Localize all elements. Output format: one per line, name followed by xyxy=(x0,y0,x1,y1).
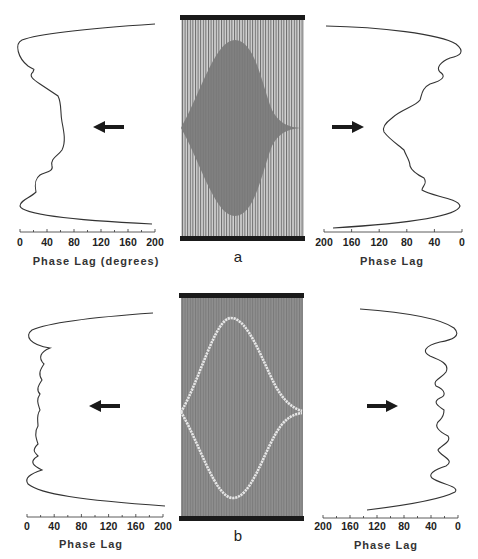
x-axis-title: Phase Lag xyxy=(59,538,123,550)
panel-b-right-plot: 200 160 120 80 40 0 Phase Lag xyxy=(314,309,461,551)
x-tick-label: 120 xyxy=(370,236,388,248)
panel-b-string-array-image xyxy=(179,293,304,521)
left-arrow-icon xyxy=(93,121,124,133)
x-tick-label: 160 xyxy=(341,520,359,532)
x-tick-label: 80 xyxy=(398,520,410,532)
bottom-boundary-bar xyxy=(180,236,305,241)
panel-b-left-plot: 0 40 80 120 160 200 Phase Lag xyxy=(24,313,172,550)
right-arrow-icon xyxy=(332,121,364,133)
x-tick-label: 0 xyxy=(455,520,461,532)
x-tick-label: 160 xyxy=(119,236,137,248)
panel-a-string-array-image xyxy=(180,15,305,241)
x-tick-label: 200 xyxy=(154,520,172,532)
panel-a-left-plot: 0 40 80 120 160 200 Phase Lag (degrees) xyxy=(17,24,164,267)
left-arrow-icon xyxy=(89,400,120,412)
panel-b: 0 40 80 120 160 200 Phase Lag b xyxy=(24,293,461,551)
phase-lag-curve xyxy=(360,309,457,510)
figure-canvas: 0 40 80 120 160 200 Phase Lag (degrees) … xyxy=(0,0,478,559)
panel-label: a xyxy=(234,248,243,265)
x-axis-title: Phase Lag xyxy=(360,255,424,267)
x-axis: 0 40 80 120 160 200 xyxy=(17,229,164,248)
x-tick-label: 40 xyxy=(41,236,53,248)
right-arrow-icon xyxy=(367,400,398,412)
x-tick-label: 200 xyxy=(315,236,333,248)
x-tick-label: 0 xyxy=(459,236,465,248)
x-tick-label: 40 xyxy=(429,236,441,248)
panel-a-right-plot: 200 160 120 80 40 0 Phase Lag xyxy=(315,26,465,267)
x-axis: 200 160 120 80 40 0 xyxy=(315,229,465,248)
panel-a: 0 40 80 120 160 200 Phase Lag (degrees) … xyxy=(17,15,465,267)
x-tick-label: 40 xyxy=(425,520,437,532)
x-tick-label: 80 xyxy=(401,236,413,248)
top-boundary-bar xyxy=(180,15,305,20)
top-boundary-bar xyxy=(179,293,304,298)
x-tick-label: 160 xyxy=(127,520,145,532)
phase-lag-curve xyxy=(27,313,165,506)
x-tick-label: 40 xyxy=(48,520,60,532)
x-tick-label: 120 xyxy=(368,520,386,532)
x-tick-label: 80 xyxy=(76,520,88,532)
x-tick-label: 200 xyxy=(314,520,332,532)
x-tick-label: 160 xyxy=(343,236,361,248)
x-axis-title: Phase Lag xyxy=(354,539,418,551)
x-tick-label: 80 xyxy=(68,236,80,248)
x-axis: 0 40 80 120 160 200 xyxy=(24,514,172,532)
x-tick-label: 120 xyxy=(92,236,110,248)
x-tick-label: 0 xyxy=(24,520,30,532)
bottom-boundary-bar xyxy=(179,516,304,521)
x-tick-label: 200 xyxy=(146,236,164,248)
x-axis: 200 160 120 80 40 0 xyxy=(314,515,461,532)
x-axis-title: Phase Lag (degrees) xyxy=(33,255,160,267)
panel-label: b xyxy=(234,527,242,544)
x-tick-label: 120 xyxy=(100,520,118,532)
phase-lag-curve xyxy=(18,24,155,224)
x-tick-label: 0 xyxy=(17,236,23,248)
